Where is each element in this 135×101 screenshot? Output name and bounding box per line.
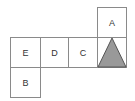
face-d: D <box>40 37 69 68</box>
face-e-label: E <box>22 48 28 58</box>
face-a: A <box>97 7 127 38</box>
face-c-label: C <box>80 48 87 58</box>
face-b-label: B <box>22 78 28 88</box>
face-c: C <box>68 37 98 68</box>
face-b: B <box>10 67 41 98</box>
triangle-icon <box>97 37 127 68</box>
face-a-label: A <box>109 18 115 28</box>
face-e: E <box>10 37 41 68</box>
face-d-label: D <box>51 48 58 58</box>
